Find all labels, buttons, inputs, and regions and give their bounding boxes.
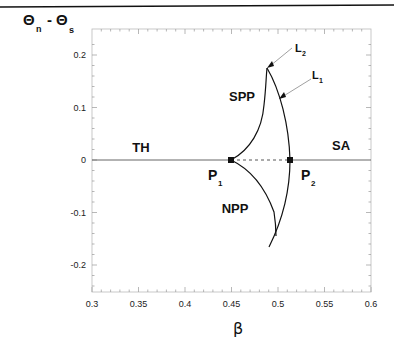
curve-l2-lower xyxy=(231,160,276,236)
label-p1: P 1 xyxy=(208,167,223,188)
x-tick-label: 0.4 xyxy=(179,299,192,309)
region-spp-label: SPP xyxy=(229,89,255,104)
curve-l2-upper xyxy=(231,68,267,160)
x-axis-label: β xyxy=(233,319,243,338)
l1-letter: L xyxy=(312,69,319,81)
x-tick-label: 0.6 xyxy=(365,299,378,309)
l1-arrow-line xyxy=(282,79,311,97)
point-p1 xyxy=(228,157,234,163)
ylabel-minus: - xyxy=(47,11,52,28)
y-tick-label: 0.2 xyxy=(73,50,86,60)
y-tick-label: 0 xyxy=(81,155,86,165)
x-tick-label: 0.5 xyxy=(272,299,285,309)
p1-sub: 1 xyxy=(218,179,223,188)
y-tick-label: -0.1 xyxy=(70,208,86,218)
y-tick-label: 0.1 xyxy=(73,103,86,113)
p1-letter: P xyxy=(208,167,217,183)
x-tick-label: 0.3 xyxy=(86,299,99,309)
region-npp-label: NPP xyxy=(222,201,249,216)
region-sa-label: SA xyxy=(332,138,351,153)
y-tick-labels: 0.2 0.1 0 -0.1 -0.2 xyxy=(70,50,86,270)
top-rule xyxy=(0,5,394,7)
x-tick-labels: 0.3 0.35 0.4 0.45 0.5 0.55 0.6 xyxy=(86,299,378,309)
curve-l1 xyxy=(267,68,290,247)
p2-sub: 2 xyxy=(311,179,316,188)
region-th-label: TH xyxy=(132,140,149,155)
y-ticks xyxy=(92,45,371,287)
l2-sub: 2 xyxy=(302,50,306,57)
l1-sub: 1 xyxy=(319,77,323,84)
y-tick-label: -0.2 xyxy=(70,260,86,270)
ylabel-sub-n: n xyxy=(36,24,42,34)
l2-arrow-line xyxy=(270,48,292,66)
l2-arrowhead-icon xyxy=(267,61,274,68)
label-l2: L 2 xyxy=(295,42,306,57)
p2-letter: P xyxy=(301,167,310,183)
ylabel-sub-s: s xyxy=(69,25,74,35)
theta-glyph: Θ xyxy=(56,11,68,28)
theta-glyph: Θ xyxy=(23,11,35,28)
l1-arrowhead-icon xyxy=(279,92,286,99)
y-axis-label: Θ n - Θ s xyxy=(23,11,74,35)
label-p2: P 2 xyxy=(301,167,316,188)
x-tick-label: 0.55 xyxy=(316,299,334,309)
l2-letter: L xyxy=(295,42,302,54)
label-l1: L 1 xyxy=(312,69,323,84)
x-tick-label: 0.45 xyxy=(223,299,241,309)
point-p2 xyxy=(287,157,293,163)
x-tick-label: 0.35 xyxy=(130,299,148,309)
phase-diagram-chart: 0.3 0.35 0.4 0.45 0.5 0.55 0.6 0.2 0.1 0… xyxy=(0,0,394,343)
